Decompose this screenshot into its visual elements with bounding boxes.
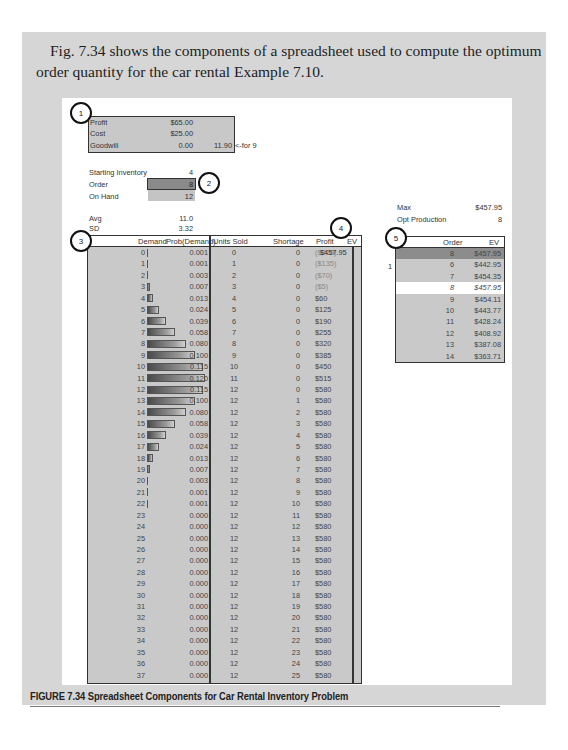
table-row: 100.115100$450: [88, 361, 361, 372]
demand-cell: 9: [141, 351, 145, 360]
order-cell: 14: [446, 352, 454, 361]
prob-cell: 0.000: [190, 602, 209, 611]
table-row: 170.024125$580: [88, 441, 361, 452]
profit-cell: $580: [315, 579, 331, 588]
units-sold-cell: 12: [226, 419, 242, 428]
profit-cell: $580: [315, 602, 331, 611]
demand-cell: 14: [137, 408, 145, 417]
probability-bar: [147, 454, 153, 462]
table-row: 290.0001217$580: [88, 578, 361, 589]
on-hand-label: On Hand: [89, 192, 119, 201]
table-row: 260.0001214$580: [88, 544, 361, 555]
probability-bar: [147, 431, 166, 439]
profit-cell: $580: [315, 396, 331, 405]
table-row: 270.0001215$580: [88, 555, 361, 566]
order-cell: 13: [446, 340, 454, 349]
units-sold-cell: 11: [226, 374, 242, 383]
table-row: 340.0001222$580: [88, 635, 361, 646]
prob-cell: 0.058: [190, 419, 209, 428]
probability-bar: [147, 340, 186, 348]
ev-cell: $454.11: [475, 295, 501, 304]
prob-cell: 0.000: [190, 659, 209, 668]
units-sold-cell: 12: [226, 465, 242, 474]
shortage-cell: 13: [292, 534, 300, 543]
order-cell: 11: [446, 317, 454, 326]
max-label: Max: [397, 203, 411, 212]
demand-cell: 30: [137, 591, 145, 600]
side-label: 1: [388, 262, 392, 271]
header-units-sold: Units Sold: [213, 237, 248, 246]
prob-cell: 0.039: [190, 317, 209, 326]
prob-cell: 0.080: [190, 408, 209, 417]
units-sold-cell: 12: [226, 454, 242, 463]
demand-cell: 37: [137, 671, 145, 680]
table-row: 60.03960$190: [88, 316, 361, 327]
demand-cell: 1: [141, 259, 145, 268]
table-row: 80.08080$320: [88, 338, 361, 349]
probability-bar: [147, 317, 166, 325]
units-sold-cell: 12: [226, 534, 242, 543]
shortage-cell: 9: [296, 488, 300, 497]
shortage-cell: 0: [296, 374, 300, 383]
figure-caption: FIGURE 7.34 Spreadsheet Components for C…: [30, 691, 348, 702]
prob-cell: 0.001: [190, 259, 209, 268]
probability-bar: [147, 443, 159, 451]
profit-cell: ($70): [315, 271, 332, 280]
avg-value: 11.0: [150, 214, 193, 223]
opt-production-label: Opt Production: [397, 215, 446, 224]
units-sold-cell: 12: [226, 408, 242, 417]
units-sold-cell: 12: [226, 476, 242, 485]
order-cell: 7: [450, 272, 454, 281]
profit-cell: $580: [315, 454, 331, 463]
demand-cell: 20: [137, 476, 145, 485]
table-row: 14$363.71: [396, 351, 504, 362]
order-cell: 10: [446, 306, 454, 315]
prob-cell: 0.007: [190, 465, 209, 474]
probability-bar: [147, 465, 150, 473]
prob-cell: 0.000: [190, 579, 209, 588]
goodwill-label: Goodwill: [90, 141, 118, 150]
on-hand-value: 12: [150, 192, 193, 201]
probability-bar: [147, 294, 153, 302]
units-sold-cell: 12: [226, 659, 242, 668]
profit-cell: $580: [315, 431, 331, 440]
profit-cell: $580: [315, 488, 331, 497]
prob-cell: 0.000: [190, 671, 209, 680]
profit-value: $65.00: [150, 118, 193, 127]
profit-cell: $580: [315, 648, 331, 657]
demand-cell: 0: [141, 248, 145, 257]
demand-cell: 33: [137, 625, 145, 634]
profit-cell: $580: [315, 442, 331, 451]
table-row: 190.007127$580: [88, 464, 361, 475]
starting-inventory-label: Starting Inventory: [89, 168, 147, 177]
shortage-cell: 18: [292, 591, 300, 600]
ev-cell: $387.08: [474, 340, 501, 349]
prob-cell: 0.120: [190, 374, 209, 383]
probability-bar: [147, 351, 195, 359]
prob-cell: 0.000: [190, 625, 209, 634]
units-sold-cell: 6: [226, 317, 242, 326]
ev-cell: $408.92: [474, 329, 501, 338]
demand-cell: 18: [137, 454, 145, 463]
units-sold-cell: 12: [226, 602, 242, 611]
units-sold-cell: 12: [226, 431, 242, 440]
table-row: 230.0001211$580: [88, 510, 361, 521]
goodwill-note: <-for 9: [235, 141, 257, 150]
prob-cell: 0.013: [190, 454, 209, 463]
shortage-cell: 0: [296, 385, 300, 394]
demand-cell: 13: [137, 396, 145, 405]
table-row: 150.058123$580: [88, 418, 361, 429]
units-sold-cell: 12: [226, 671, 242, 680]
cost-value: $25.00: [150, 129, 193, 138]
prob-cell: 0.000: [190, 522, 209, 531]
demand-cell: 29: [137, 579, 145, 588]
goodwill-extra: 11.90: [200, 141, 232, 150]
profit-cell: $580: [315, 385, 331, 394]
table-row: 120.115120$580: [88, 384, 361, 395]
shortage-cell: 2: [296, 408, 300, 417]
shortage-cell: 12: [292, 522, 300, 531]
table-row: 70.05870$255: [88, 327, 361, 338]
table-row: 310.0001219$580: [88, 601, 361, 612]
shortage-cell: 7: [296, 465, 300, 474]
units-sold-cell: 12: [226, 522, 242, 531]
